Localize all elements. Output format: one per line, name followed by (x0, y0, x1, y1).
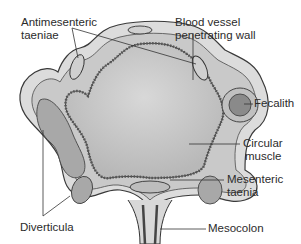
mesocolon (128, 200, 172, 244)
label-blood-vessel: Blood vessel penetrating wall (175, 16, 256, 42)
label-circular-muscle: Circular muscle (243, 137, 283, 163)
mesenteric-taenia (130, 181, 170, 193)
label-mesenteric-taenia: Mesenteric taenia (227, 173, 283, 199)
fecalith (229, 94, 251, 116)
label-antimesenteric-taeniae: Antimesenteric taeniae (21, 16, 97, 42)
label-fecalith: Fecalith (254, 97, 294, 110)
top-taenia (128, 26, 152, 34)
label-diverticula: Diverticula (20, 221, 74, 234)
label-mesocolon: Mesocolon (208, 222, 264, 235)
colon-diverticula-diagram: Antimesenteric taeniae Blood vessel pene… (0, 0, 301, 244)
